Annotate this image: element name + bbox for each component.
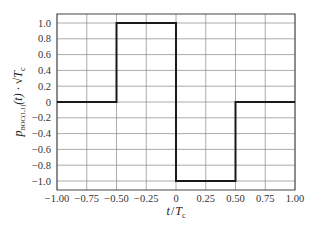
x-tick-label: −0.50 (104, 193, 128, 204)
y-tick-labels: 1.00.80.60.40.20−0.2−0.4−0.6−0.8−1.0 (32, 18, 52, 187)
x-tick-label: −0.25 (134, 193, 158, 204)
y-tick-label: −0.4 (32, 128, 52, 139)
boc-waveform-line (57, 23, 295, 181)
x-tick-label: 1.00 (286, 193, 304, 204)
y-tick-label: −1.0 (32, 176, 51, 187)
x-axis-label: t/Tc (167, 204, 186, 220)
y-tick-label: 0.4 (38, 65, 52, 76)
x-tick-label: −1.00 (45, 193, 69, 204)
y-tick-label: −0.6 (32, 144, 51, 155)
y-axis-label: pBOC(1,1)(t) · √Tc (11, 67, 27, 137)
x-tick-label: 0 (173, 193, 178, 204)
y-tick-label: −0.8 (32, 160, 51, 171)
y-tick-label: 0.8 (38, 33, 51, 44)
x-tick-label: 0.75 (256, 193, 274, 204)
x-tick-label: 0.25 (197, 193, 215, 204)
y-tick-label: 0 (46, 97, 51, 108)
chart: 1.00.80.60.40.20−0.2−0.4−0.6−0.8−1.0 −1.… (0, 0, 315, 225)
y-tick-label: 1.0 (38, 18, 51, 29)
x-tick-label: 0.50 (226, 193, 244, 204)
y-tick-label: 0.2 (38, 81, 51, 92)
y-tick-label: 0.6 (38, 49, 51, 60)
x-tick-label: −0.75 (75, 193, 99, 204)
x-tick-labels: −1.00−0.75−0.50−0.2500.250.500.751.00 (45, 193, 304, 204)
y-tick-label: −0.2 (32, 112, 51, 123)
